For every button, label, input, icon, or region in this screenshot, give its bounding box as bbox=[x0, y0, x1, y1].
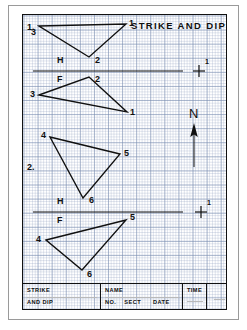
north-arrow-icon bbox=[190, 123, 198, 167]
north-label: N bbox=[189, 107, 198, 120]
plane-label-h-1: H bbox=[57, 56, 64, 65]
page-title: STRIKE AND DIP bbox=[131, 20, 226, 31]
vertex-label-p2f-4: 4 bbox=[36, 235, 41, 244]
problem1-frontal-triangle bbox=[39, 77, 127, 112]
vertex-label-p1f-2: 2 bbox=[95, 75, 100, 84]
date-field-label: DATE bbox=[153, 299, 170, 305]
time-field-label: TIME bbox=[187, 286, 203, 297]
worksheet-sheet: STRIKE AND DIP 1. 2. H F H F 3 1 2 2 3 1… bbox=[0, 0, 247, 330]
blank-field-rule bbox=[214, 298, 225, 300]
problem2-frontal-triangle bbox=[46, 220, 126, 270]
no-field-label: NO. bbox=[105, 299, 116, 305]
vertex-label-p1h-2: 2 bbox=[95, 56, 100, 65]
vertex-label-p1h-1: 1 bbox=[129, 19, 134, 28]
drawing-title-line-2: AND DIP bbox=[27, 298, 97, 309]
sect-field-label: SECT bbox=[124, 299, 141, 305]
vertex-label-p1h-3: 3 bbox=[31, 28, 36, 37]
vertex-label-p2h-4: 4 bbox=[41, 131, 46, 140]
problem1-horizontal-triangle bbox=[39, 24, 126, 57]
time-field-rule bbox=[187, 300, 203, 302]
name-field-label: NAME bbox=[105, 286, 179, 298]
problem2-reference-cross bbox=[195, 206, 207, 218]
problem1-reference-cross bbox=[193, 65, 205, 77]
vertex-label-p2h-6: 6 bbox=[89, 196, 94, 205]
plane-label-h-2: H bbox=[57, 197, 64, 206]
vertex-label-p2f-5: 5 bbox=[130, 213, 135, 222]
vertex-label-p1f-3: 3 bbox=[30, 90, 35, 99]
reference-mark-label-2: 1 bbox=[207, 199, 211, 206]
plane-label-f-1: F bbox=[57, 75, 63, 84]
vertex-label-p2f-6: 6 bbox=[87, 270, 92, 279]
vertex-label-p1f-1: 1 bbox=[130, 108, 135, 117]
drawing-title-line-1: STRIKE bbox=[27, 286, 97, 298]
problem2-horizontal-triangle bbox=[50, 137, 120, 198]
plane-label-f-2: F bbox=[57, 216, 63, 225]
problem-number-2: 2. bbox=[27, 163, 35, 172]
no-sect-date-row: NO.SECTDATE bbox=[105, 298, 179, 309]
title-block: STRIKE AND DIP NAME NO.SECTDATE TIME bbox=[23, 283, 227, 309]
vertex-label-p2h-5: 5 bbox=[124, 149, 129, 158]
reference-mark-label-1: 1 bbox=[205, 58, 209, 65]
drawing-frame: STRIKE AND DIP 1. 2. H F H F 3 1 2 2 3 1… bbox=[22, 14, 227, 310]
title-block-cell-name: NAME NO.SECTDATE bbox=[101, 284, 183, 309]
title-block-cell-time: TIME bbox=[183, 284, 207, 309]
drawing-ink-layer bbox=[23, 15, 227, 310]
title-block-cell-blank bbox=[207, 284, 227, 309]
title-block-cell-drawing-title: STRIKE AND DIP bbox=[23, 284, 101, 309]
